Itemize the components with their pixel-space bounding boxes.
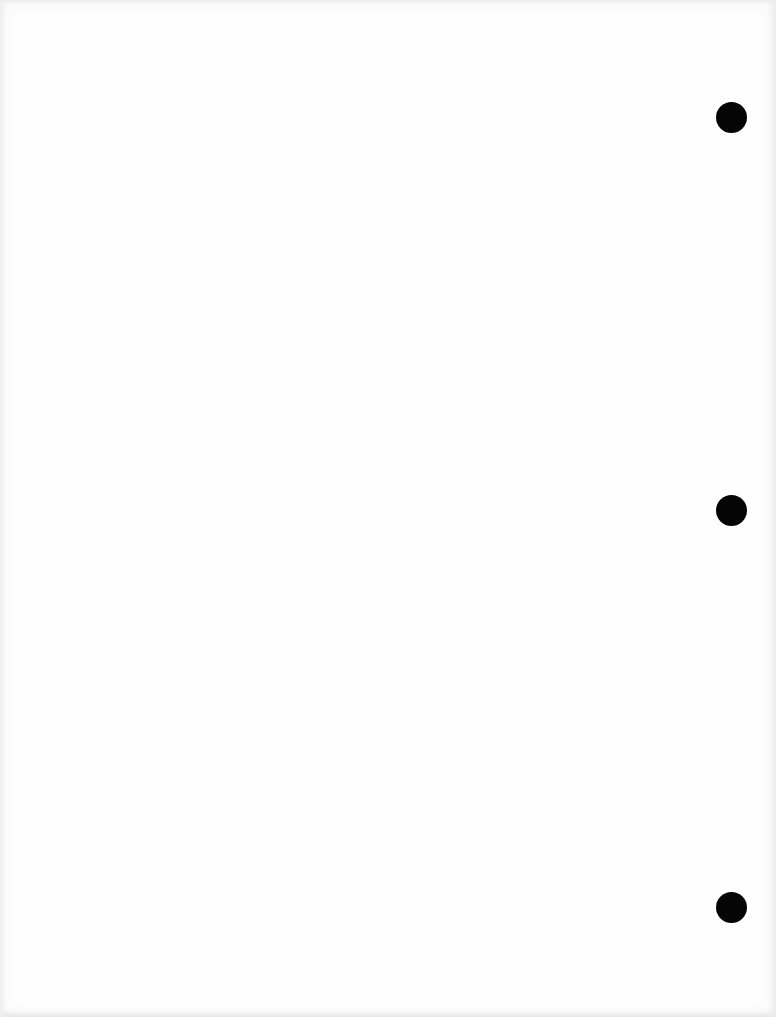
punch-hole-top [716, 102, 747, 133]
punch-hole-middle [716, 495, 747, 526]
page-edge-bottom [0, 1011, 776, 1017]
scanned-page [0, 0, 776, 1017]
page-edge-right [768, 0, 776, 1017]
page-edge-top [0, 0, 776, 4]
punch-hole-bottom [716, 892, 747, 923]
page-edge-left [0, 0, 6, 1017]
